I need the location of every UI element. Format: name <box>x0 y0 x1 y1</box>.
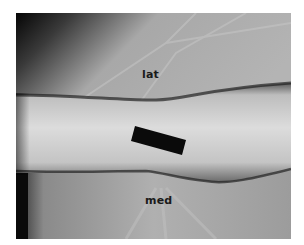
medial-label: med <box>145 194 172 207</box>
lateral-label: lat <box>142 68 159 81</box>
clinical-photo: lat med <box>16 13 291 239</box>
